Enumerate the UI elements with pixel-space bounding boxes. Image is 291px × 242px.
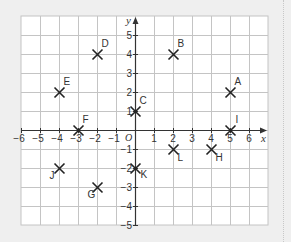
page-edge-divider (283, 0, 284, 242)
y-axis-label: y (125, 14, 131, 26)
point-label: K (141, 169, 148, 180)
y-tick-label: 4 (126, 49, 132, 60)
x-tick-label: 3 (189, 133, 195, 144)
x-tick-label: −4 (51, 133, 63, 144)
point-label: B (178, 38, 185, 49)
grid-lines (21, 16, 268, 225)
coordinate-grid: xyO −6−5−4−3−2−112345654321−1−2−3−4−5 AB… (0, 0, 291, 242)
y-tick-label: −1 (121, 144, 133, 155)
point-label: J (50, 170, 55, 181)
point-label: C (140, 95, 147, 106)
x-tick-label: 5 (227, 133, 233, 144)
point-label: F (83, 114, 89, 125)
x-tick-label: 6 (246, 133, 252, 144)
point-label: E (64, 76, 71, 87)
y-tick-label: −5 (121, 220, 133, 231)
x-axis-label: x (260, 132, 266, 144)
point-label: I (236, 114, 239, 125)
y-tick-label: 2 (126, 87, 132, 98)
point-label: L (178, 152, 184, 163)
y-tick-label: 3 (126, 68, 132, 79)
x-tick-label: −2 (89, 133, 101, 144)
point-label: A (235, 76, 242, 87)
y-tick-label: −4 (121, 201, 133, 212)
x-tick-label: −6 (13, 133, 25, 144)
point-label: H (216, 152, 223, 163)
x-tick-label: 4 (208, 133, 214, 144)
x-tick-label: −3 (70, 133, 82, 144)
y-tick-label: −3 (121, 182, 133, 193)
x-tick-label: 1 (151, 133, 157, 144)
point-label: G (88, 189, 96, 200)
x-tick-label: −5 (32, 133, 44, 144)
point-label: D (102, 38, 109, 49)
x-tick-label: −1 (108, 133, 120, 144)
origin-label: O (125, 132, 132, 143)
y-tick-label: 5 (126, 30, 132, 41)
x-tick-label: 2 (170, 133, 176, 144)
